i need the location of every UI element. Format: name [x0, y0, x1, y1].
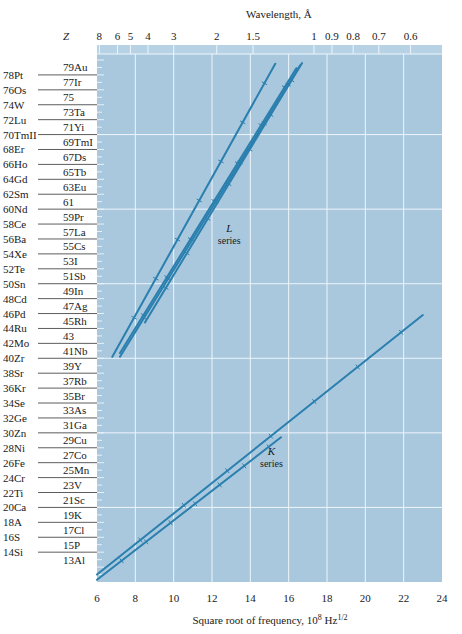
wavelength-axis-title: Wavelength, Å — [246, 8, 312, 20]
element-label-right: 51Sb — [63, 270, 86, 282]
element-label-right: 63Eu — [63, 181, 87, 193]
element-label-right: 43 — [63, 330, 75, 342]
element-label-left: 36Kr — [3, 382, 26, 394]
element-label-left: 30Zn — [3, 427, 27, 439]
element-label-left: 48Cd — [3, 293, 27, 305]
element-label-right: 75 — [63, 91, 75, 103]
element-label-left: 74W — [3, 99, 25, 111]
element-label-right: 65Tb — [63, 166, 87, 178]
element-label-left: 24Cr — [3, 472, 25, 484]
element-label-right: 73Ta — [63, 106, 85, 118]
x-tick-label: 6 — [94, 592, 100, 604]
element-label-left: 52Te — [3, 263, 25, 275]
element-label-left: 22Ti — [3, 487, 23, 499]
element-label-left: 42Mo — [3, 337, 30, 349]
series-annotation-letter: K — [267, 445, 276, 457]
element-label-right: 17Cl — [63, 524, 84, 536]
element-label-right: 35Br — [63, 390, 85, 402]
element-label-right: 55Cs — [63, 240, 86, 252]
x-tick-label: 24 — [437, 592, 449, 604]
wavelength-tick-label: 4 — [145, 30, 151, 42]
x-tick-label: 14 — [245, 592, 257, 604]
wavelength-tick-label: 1.5 — [246, 30, 260, 42]
element-label-left: 16S — [3, 531, 20, 543]
x-tick-label: 16 — [283, 592, 295, 604]
element-label-left: 50Sn — [3, 278, 26, 290]
element-label-left: 38Sr — [3, 367, 24, 379]
element-label-right: 13Al — [63, 554, 85, 566]
element-label-left: 66Ho — [3, 158, 28, 170]
moseley-chart: 78Pt76Os74W72Lu70TmII68Er66Ho64Gd62Sm60N… — [0, 0, 462, 634]
wavelength-tick-label: 1 — [311, 30, 317, 42]
element-label-right: 57La — [63, 226, 86, 238]
element-label-left: 26Fe — [3, 457, 25, 469]
wavelength-tick-label: 5 — [128, 30, 134, 42]
element-label-left: 18A — [3, 516, 22, 528]
element-label-right: 71Yi — [63, 121, 84, 133]
wavelength-tick-label: 2 — [214, 30, 220, 42]
element-label-right: 47Ag — [63, 300, 88, 312]
element-label-right: 79Au — [63, 61, 88, 73]
element-label-right: 27Co — [63, 449, 87, 461]
x-tick-label: 20 — [360, 592, 372, 604]
wavelength-tick-label: 0.7 — [372, 30, 386, 42]
element-label-left: 64Gd — [3, 173, 28, 185]
element-label-right: 29Cu — [63, 434, 87, 446]
x-tick-label: 12 — [207, 592, 218, 604]
z-axis-label: Z — [63, 30, 70, 42]
element-label-left: 46Pd — [3, 308, 26, 320]
element-label-left: 40Zr — [3, 352, 25, 364]
element-label-left: 44Ru — [3, 322, 27, 334]
element-label-left: 14Si — [3, 546, 23, 558]
element-label-right: 33As — [63, 404, 86, 416]
wavelength-tick-label: 0.9 — [325, 30, 339, 42]
element-label-right: 39Y — [63, 360, 82, 372]
plot-area — [97, 45, 442, 582]
element-label-left: 68Er — [3, 143, 25, 155]
x-tick-label: 18 — [322, 592, 334, 604]
plot-background — [97, 45, 442, 582]
element-label-left: 34Se — [3, 397, 25, 409]
x-tick-label: 10 — [168, 592, 180, 604]
element-label-right: 31Ga — [63, 419, 87, 431]
wavelength-tick-label: 6 — [115, 30, 121, 42]
element-label-right: 77Ir — [63, 76, 82, 88]
wavelength-tick-label: 0.8 — [346, 30, 360, 42]
element-label-left: 54Xe — [3, 248, 27, 260]
element-label-right: 25Mn — [63, 464, 90, 476]
wavelength-tick-label: 0.6 — [404, 30, 418, 42]
x-tick-label: 8 — [133, 592, 139, 604]
element-label-right: 37Rb — [63, 375, 87, 387]
element-label-right: 41Nb — [63, 345, 88, 357]
element-label-right: 23V — [63, 479, 82, 491]
element-label-left: 70TmII — [3, 129, 37, 141]
wavelength-tick-label: 3 — [171, 30, 177, 42]
wavelength-tick-label: 8 — [97, 30, 103, 42]
series-annotation-word: series — [218, 235, 241, 246]
element-label-left: 78Pt — [3, 69, 23, 81]
series-annotation-word: series — [260, 458, 283, 469]
element-label-right: 19K — [63, 509, 82, 521]
element-label-right: 59Pr — [63, 211, 84, 223]
element-label-right: 21Sc — [63, 494, 85, 506]
element-label-right: 67Ds — [63, 151, 86, 163]
element-label-left: 62Sm — [3, 188, 29, 200]
element-label-right: 49In — [63, 285, 84, 297]
element-label-left: 56Ba — [3, 233, 26, 245]
series-annotation-letter: L — [225, 222, 232, 234]
element-label-right: 61 — [63, 196, 74, 208]
element-label-left: 20Ca — [3, 501, 26, 513]
element-label-right: 53I — [63, 255, 78, 267]
element-label-right: 15P — [63, 539, 80, 551]
x-axis-title: Square root of frequency, 108 Hz1/2 — [192, 613, 347, 626]
element-label-right: 45Rh — [63, 315, 87, 327]
x-tick-label: 22 — [398, 592, 409, 604]
element-label-left: 28Ni — [3, 442, 25, 454]
element-label-left: 58Ce — [3, 218, 26, 230]
element-label-left: 76Os — [3, 84, 26, 96]
wavelength-strip — [97, 45, 442, 54]
element-label-left: 60Nd — [3, 203, 28, 215]
element-label-left: 72Lu — [3, 114, 27, 126]
element-label-right: 69TmI — [63, 136, 93, 148]
element-label-left: 32Ge — [3, 412, 27, 424]
